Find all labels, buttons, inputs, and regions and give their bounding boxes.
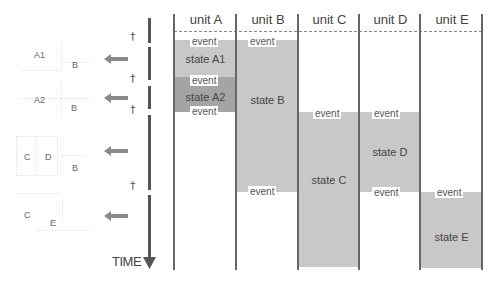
event-label: event (372, 108, 400, 119)
event-label: event (435, 187, 463, 198)
header-unit-d: unit D (361, 10, 420, 30)
sketch-line (61, 98, 89, 99)
time-axis-segment (148, 18, 151, 43)
event-label: event (190, 36, 218, 47)
sketch-line (16, 193, 61, 194)
sketch-line (20, 70, 61, 71)
state-label-a1: state A1 (175, 53, 236, 65)
event-label: event (190, 75, 218, 86)
time-arrowhead-icon (143, 257, 156, 269)
time-axis-label: TIME (112, 254, 141, 269)
sketch-line (61, 82, 62, 118)
header-unit-a: unit A (176, 10, 236, 30)
left-arrow-icon (104, 211, 128, 221)
dagger-mark: † (130, 103, 136, 116)
column-divider (297, 14, 299, 270)
left-arrow-icon (104, 146, 128, 156)
sketch-label: C (24, 152, 31, 162)
state-label-a2: state A2 (175, 91, 236, 103)
sketch-line (36, 136, 37, 174)
sketch-label: E (50, 218, 56, 228)
event-label: event (190, 106, 218, 117)
state-label-c: state C (299, 174, 359, 186)
header-unit-c: unit C (300, 10, 359, 30)
state-b-region (237, 40, 298, 192)
time-axis-segment (148, 86, 151, 109)
sketch-label: A2 (34, 95, 45, 105)
column-divider (358, 14, 360, 270)
state-label-d: state D (360, 146, 420, 158)
dagger-mark: † (130, 179, 136, 192)
sketch-label: B (71, 103, 77, 113)
sketch-label: D (45, 152, 52, 162)
state-c-region (299, 112, 359, 267)
sketch-line (61, 43, 62, 71)
event-label: event (313, 108, 341, 119)
event-label: event (372, 187, 400, 198)
sketch-line (36, 230, 90, 231)
event-label: event (248, 36, 276, 47)
left-arrow-icon (104, 54, 128, 64)
sketch-line (62, 200, 63, 220)
time-axis-segment (148, 47, 151, 80)
header-unit-b: unit B (238, 10, 298, 30)
time-axis-segment (148, 115, 151, 190)
dagger-mark: † (130, 72, 136, 85)
event-label: event (248, 186, 276, 197)
sketch-label: A1 (34, 50, 45, 60)
state-label-e: state E (421, 231, 482, 243)
header-divider (174, 31, 482, 33)
sketch-label: B (72, 163, 78, 173)
time-axis-segment (148, 195, 151, 259)
state-label-b: state B (237, 94, 298, 106)
header-unit-e: unit E (422, 10, 482, 30)
left-arrow-icon (104, 93, 128, 103)
state-e-region (421, 192, 482, 268)
sketch-line (62, 155, 86, 156)
sketch-label: C (24, 210, 31, 220)
dagger-mark: † (130, 30, 136, 43)
sketch-label: B (72, 60, 78, 70)
